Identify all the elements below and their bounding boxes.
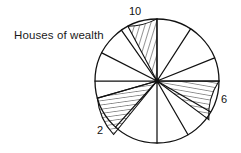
sector-label-2: 2 [97,124,103,136]
houses-of-wealth-chart [0,0,241,153]
sector-label-6: 6 [221,93,227,105]
sector-label-10: 10 [129,5,141,17]
chart-center-hub [154,78,159,83]
chart-caption: Houses of wealth [14,29,104,41]
